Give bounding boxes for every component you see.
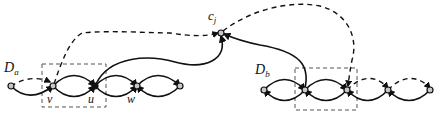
label-w: w <box>127 92 135 106</box>
label-u: u <box>88 92 94 106</box>
edge-b1-to-cj <box>224 34 306 88</box>
node-b1 <box>302 87 308 93</box>
nodes <box>8 30 433 93</box>
node-b2 <box>344 87 350 93</box>
node-u <box>92 83 98 89</box>
node-v <box>50 83 56 89</box>
node-b0 <box>261 87 267 93</box>
edge-u-to-cj <box>96 36 222 84</box>
node-cj <box>218 30 224 36</box>
edge-a0-v-dashed <box>11 79 50 86</box>
label-d-a: Da <box>3 60 19 77</box>
reduction-diagram: cj Da Db v u w <box>0 0 438 114</box>
edge-cj-to-b2-dashed <box>223 4 354 86</box>
label-cj: cj <box>208 8 217 25</box>
node-a4 <box>177 83 183 89</box>
node-w <box>134 83 140 89</box>
node-b4 <box>427 87 433 93</box>
label-v: v <box>47 92 53 106</box>
node-b3 <box>385 87 391 93</box>
node-a0 <box>8 83 14 89</box>
label-d-b: Db <box>254 62 270 79</box>
